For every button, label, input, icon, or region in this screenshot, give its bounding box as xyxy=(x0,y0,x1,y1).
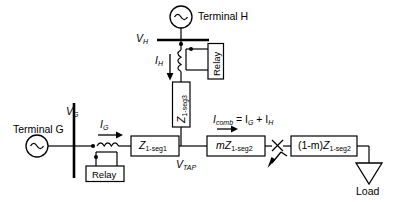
tap-node-label: VTAP xyxy=(176,159,196,170)
z-seg3-label: Z1-seg3 xyxy=(176,95,187,123)
bus-h-label-sub: H xyxy=(143,38,148,45)
power-system-schematic xyxy=(0,0,400,202)
bus-g-label-main: V xyxy=(66,105,73,117)
current-comb-arrow xyxy=(217,126,238,133)
ct-g-current-transformer xyxy=(94,143,131,166)
ct-h-polarity-dot xyxy=(189,47,193,51)
current-h-label: IH xyxy=(155,55,163,66)
current-h-arrow-head xyxy=(167,73,174,81)
bus-h-label-main: V xyxy=(136,32,143,44)
ct-g-coil xyxy=(97,143,119,146)
bus-g-label: VG xyxy=(66,106,78,117)
z-seg1-label: Z1-seg1 xyxy=(139,140,167,151)
terminal-g-label: Terminal G xyxy=(13,124,64,135)
bus-h-label: VH xyxy=(136,33,148,44)
ct-g-polarity-dot xyxy=(94,155,98,159)
ct-h-current-transformer xyxy=(178,46,208,82)
tap-node-label-sub: TAP xyxy=(183,164,196,171)
one-minus-m-z-seg2-label: (1-m)Z1-seg2 xyxy=(298,140,351,151)
z-seg1-label-sub: 1-seg1 xyxy=(145,145,166,152)
mz-seg2-label-prefix: m xyxy=(216,139,225,151)
ct-h-coil xyxy=(178,50,181,72)
current-comb-arrow-head xyxy=(231,126,238,133)
fault-marker xyxy=(265,140,291,168)
relay-h-label: Relay xyxy=(212,52,222,76)
current-g-arrow xyxy=(98,132,123,139)
load-terminal xyxy=(356,146,382,184)
one-minus-m-z-seg2-label-sub: 1-seg2 xyxy=(330,145,351,152)
mz-seg2-label: mZ1-seg2 xyxy=(216,140,253,151)
current-comb-label-sub3: H xyxy=(268,119,273,126)
current-g-label-sub: G xyxy=(103,124,108,131)
terminal-g-source xyxy=(26,135,74,157)
terminal-h-source xyxy=(170,6,192,40)
relay-g-label: Relay xyxy=(92,170,116,180)
current-h-arrow xyxy=(167,54,174,81)
one-minus-m-z-seg2-label-prefix: (1-m) xyxy=(298,139,323,151)
current-comb-label-plus: + I xyxy=(253,113,268,125)
fault-arrow-head xyxy=(268,157,276,168)
current-comb-label: Icomb = IG + IH xyxy=(213,114,273,125)
current-h-label-sub: H xyxy=(158,60,163,67)
current-comb-label-sub2: G xyxy=(248,119,253,126)
mz-seg2-label-sub: 1-seg2 xyxy=(231,145,252,152)
bus-g-node-dot xyxy=(91,144,95,148)
tap-node-label-main: V xyxy=(176,158,183,170)
current-g-label: IG xyxy=(100,119,108,130)
bus-g-label-sub: G xyxy=(73,111,78,118)
fault-arrow-tail xyxy=(281,152,287,156)
current-comb-label-sub: comb xyxy=(216,119,233,126)
one-minus-m-z-seg2-label-main: Z xyxy=(323,139,329,151)
current-g-arrow-head xyxy=(116,132,123,139)
z-seg3-label-main: Z xyxy=(175,117,187,123)
terminal-h-label: Terminal H xyxy=(198,11,248,22)
diagram-canvas: Terminal H VH IH Relay Z1-seg3 VG Termin… xyxy=(0,0,400,202)
load-label: Load xyxy=(356,186,379,197)
z-seg3-label-sub: 1-seg3 xyxy=(181,95,188,116)
current-comb-label-eq: = I xyxy=(233,113,248,125)
load-triangle-icon xyxy=(356,163,382,184)
